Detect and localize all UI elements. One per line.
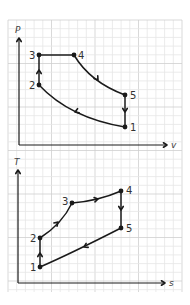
- thermodynamic-cycle-diagrams: P v 12345 T s 12345: [0, 0, 190, 305]
- state-label-1: 1: [30, 262, 36, 273]
- state-point-1: [38, 265, 43, 270]
- state-point-5: [123, 93, 128, 98]
- state-point-4: [72, 53, 77, 58]
- state-point-3: [70, 201, 75, 206]
- ts-x-axis-label: s: [169, 278, 174, 288]
- state-label-3: 3: [62, 196, 68, 207]
- state-label-2: 2: [29, 80, 35, 91]
- state-label-5: 5: [130, 90, 136, 101]
- pv-y-axis-label: P: [15, 25, 21, 35]
- state-point-3: [37, 53, 42, 58]
- state-label-4: 4: [78, 50, 84, 61]
- state-label-1: 1: [130, 122, 136, 133]
- state-label-2: 2: [30, 233, 36, 244]
- pv-x-axis-label: v: [171, 140, 177, 150]
- state-point-4: [119, 189, 124, 194]
- state-point-2: [37, 83, 42, 88]
- state-point-1: [123, 125, 128, 130]
- state-label-3: 3: [29, 50, 35, 61]
- state-point-5: [119, 226, 124, 231]
- state-label-5: 5: [126, 223, 132, 234]
- state-point-2: [38, 236, 43, 241]
- state-label-4: 4: [126, 185, 132, 196]
